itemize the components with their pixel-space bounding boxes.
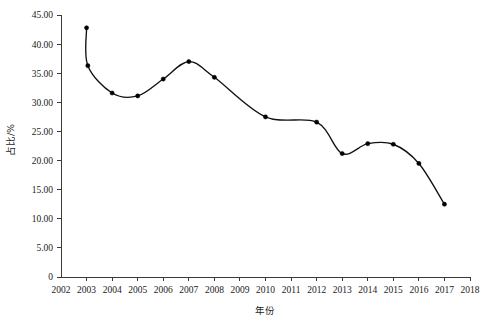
- x-tick-label: 2002: [52, 285, 71, 295]
- x-tick-label: 2014: [358, 285, 377, 295]
- series-markers: [84, 26, 446, 207]
- chart-canvas: 05.0010.0015.0020.0025.0030.0035.0040.00…: [0, 0, 494, 324]
- y-tick-label: 15.00: [32, 185, 54, 195]
- x-axis-ticks: [87, 277, 470, 281]
- data-point-marker: [187, 59, 191, 63]
- x-tick-label: 2013: [333, 285, 352, 295]
- y-tick-label: 0: [48, 272, 53, 282]
- y-tick-label: 25.00: [32, 127, 54, 137]
- x-tick-label: 2004: [103, 285, 122, 295]
- data-point-marker: [110, 91, 114, 95]
- y-tick-label: 10.00: [32, 214, 54, 224]
- x-tick-label: 2006: [154, 285, 173, 295]
- data-series: [84, 26, 446, 207]
- y-axis-tick-labels: 05.0010.0015.0020.0025.0030.0035.0040.00…: [32, 10, 54, 282]
- data-point-marker: [161, 77, 165, 81]
- data-point-marker: [417, 161, 421, 165]
- data-point-marker: [263, 115, 267, 119]
- y-tick-label: 40.00: [32, 40, 54, 50]
- data-point-marker: [340, 151, 344, 155]
- data-point-marker: [391, 142, 395, 146]
- data-point-marker: [86, 64, 90, 68]
- x-axis: 2002200320042005200620072008200920102011…: [52, 277, 480, 295]
- x-tick-label: 2017: [435, 285, 454, 295]
- x-tick-label: 2016: [409, 285, 428, 295]
- y-tick-label: 30.00: [32, 98, 54, 108]
- x-tick-label: 2018: [461, 285, 480, 295]
- x-tick-label: 2015: [384, 285, 403, 295]
- data-point-marker: [84, 26, 88, 30]
- x-tick-label: 2003: [77, 285, 96, 295]
- x-tick-label: 2007: [179, 285, 198, 295]
- x-tick-label: 2005: [128, 285, 147, 295]
- data-point-marker: [212, 75, 216, 79]
- y-tick-label: 20.00: [32, 156, 54, 166]
- x-axis-title: 年份: [255, 305, 275, 316]
- y-axis-title: 占比/%: [5, 124, 16, 156]
- data-point-marker: [442, 202, 446, 206]
- data-point-marker: [136, 94, 140, 98]
- y-tick-label: 45.00: [32, 10, 54, 20]
- x-tick-label: 2009: [230, 285, 249, 295]
- x-tick-label: 2012: [307, 285, 326, 295]
- y-axis-ticks: [57, 15, 61, 277]
- y-tick-label: 35.00: [32, 69, 54, 79]
- y-tick-label: 5.00: [36, 243, 53, 253]
- data-point-marker: [366, 142, 370, 146]
- x-tick-label: 2011: [282, 285, 301, 295]
- data-point-marker: [315, 120, 319, 124]
- x-axis-tick-labels: 2002200320042005200620072008200920102011…: [52, 285, 480, 295]
- x-tick-label: 2010: [256, 285, 275, 295]
- y-axis: 05.0010.0015.0020.0025.0030.0035.0040.00…: [32, 10, 61, 282]
- x-tick-label: 2008: [205, 285, 224, 295]
- line-chart: 05.0010.0015.0020.0025.0030.0035.0040.00…: [0, 0, 494, 324]
